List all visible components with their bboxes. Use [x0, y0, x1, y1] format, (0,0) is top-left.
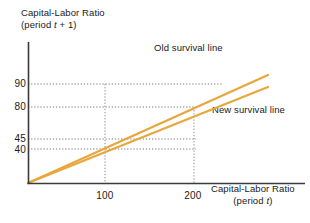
line-old-survival: [28, 75, 268, 183]
plot-area: [0, 0, 310, 223]
line-new-survival: [28, 87, 268, 183]
chart-figure: Capital-Labor Ratio(period t + 1) Capita…: [0, 0, 310, 223]
